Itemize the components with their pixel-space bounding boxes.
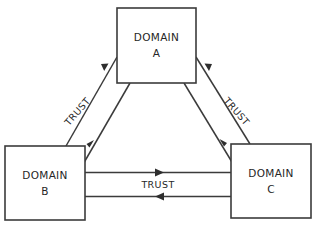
node-domain-c-label-line2: C xyxy=(267,183,275,195)
node-domain-b[interactable]: DOMAIN B xyxy=(5,146,85,220)
node-domain-c-label-line1: DOMAIN xyxy=(248,167,293,179)
node-domain-c[interactable]: DOMAIN C xyxy=(231,144,311,218)
node-domain-a-label-line2: A xyxy=(153,47,161,59)
arrow-head-toward-domain-b-horizontal xyxy=(155,193,164,201)
arrow-head-toward-domain-c-horizontal xyxy=(155,169,164,177)
trust-relationship-diagram: TRUST TRUST TRUST DOMAIN A xyxy=(0,0,318,227)
node-domain-b-label-line1: DOMAIN xyxy=(22,169,67,181)
node-domain-b-label-line2: B xyxy=(41,185,49,197)
edge-label-b-c: TRUST xyxy=(140,179,174,190)
node-domain-a-label-line1: DOMAIN xyxy=(134,31,179,43)
arrow-head-toward-domain-a-right xyxy=(205,64,213,72)
node-domain-b-box[interactable] xyxy=(5,146,85,220)
arrow-head-toward-domain-a xyxy=(101,64,109,72)
edge-b-a-line-inbound xyxy=(78,83,130,173)
node-domain-a[interactable]: DOMAIN A xyxy=(117,8,196,83)
edge-b-a-line-outbound xyxy=(66,57,117,146)
edge-label-b-a: TRUST xyxy=(62,95,93,128)
edge-domain-b-to-domain-c: TRUST xyxy=(85,169,231,201)
node-domain-c-box[interactable] xyxy=(231,144,311,218)
diagram-canvas: TRUST TRUST TRUST DOMAIN A xyxy=(0,0,318,227)
node-domain-a-box[interactable] xyxy=(117,8,196,83)
